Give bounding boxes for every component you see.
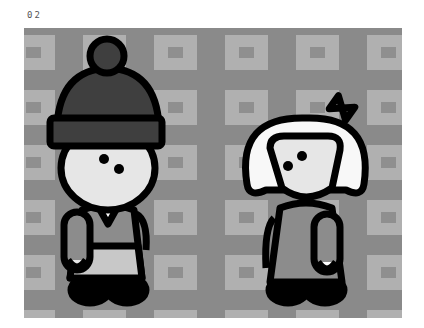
frame-number: 02 <box>27 10 42 20</box>
illustration <box>24 28 402 318</box>
